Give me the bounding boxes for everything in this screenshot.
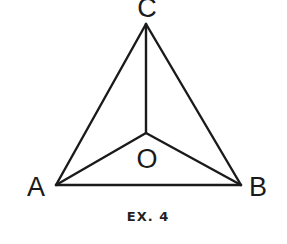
- label-b: B: [249, 172, 267, 202]
- segment-bc: [146, 24, 241, 185]
- segment-ca: [56, 24, 146, 185]
- figure-caption: EX. 4: [127, 209, 169, 224]
- triangle-diagram: C A B O EX. 4: [0, 0, 287, 244]
- label-c: C: [137, 0, 157, 23]
- label-a: A: [27, 172, 45, 202]
- label-o: O: [136, 144, 157, 174]
